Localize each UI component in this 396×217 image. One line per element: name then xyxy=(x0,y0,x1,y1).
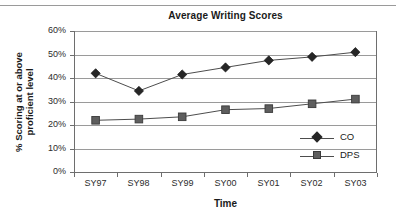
square-marker-icon xyxy=(313,151,321,159)
x-tick-7 xyxy=(377,173,378,177)
x-tick-label-SY01: SY01 xyxy=(247,178,290,188)
data-point-dps-SY99 xyxy=(178,113,186,121)
data-point-dps-SY98 xyxy=(135,115,143,123)
x-tick-2 xyxy=(161,173,162,177)
x-tick-6 xyxy=(334,173,335,177)
y-axis-line xyxy=(74,31,75,173)
x-tick-label-SY02: SY02 xyxy=(290,178,333,188)
x-tick-label-SY03: SY03 xyxy=(334,178,377,188)
x-tick-label-SY00: SY00 xyxy=(204,178,247,188)
diamond-marker-icon xyxy=(311,131,322,142)
x-tick-label-SY99: SY99 xyxy=(161,178,204,188)
data-point-dps-SY00 xyxy=(222,106,230,114)
data-point-co-SY01 xyxy=(264,56,273,65)
x-tick-1 xyxy=(117,173,118,177)
chart-title: Average Writing Scores xyxy=(74,10,377,21)
y-tick-label-0%: 0% xyxy=(24,166,66,176)
gridline-50% xyxy=(74,55,377,56)
x-tick-0 xyxy=(74,173,75,177)
page-top-rule xyxy=(0,5,396,6)
y-tick-label-20%: 20% xyxy=(24,119,66,129)
x-tick-5 xyxy=(290,173,291,177)
x-tick-label-SY97: SY97 xyxy=(74,178,117,188)
legend-item-dps: DPS xyxy=(300,148,372,164)
y-tick-label-10%: 10% xyxy=(24,143,66,153)
gridline-20% xyxy=(74,125,377,126)
gridline-60% xyxy=(74,31,377,32)
gridline-0% xyxy=(74,172,377,173)
chart-page: Average Writing Scores % Scoring at or a… xyxy=(0,0,396,217)
y-tick-label-50%: 50% xyxy=(24,49,66,59)
y-tick-label-60%: 60% xyxy=(24,25,66,35)
gridline-30% xyxy=(74,102,377,103)
y-tick-label-30%: 30% xyxy=(24,96,66,106)
legend-item-co: CO xyxy=(300,130,372,146)
data-point-co-SY98 xyxy=(134,86,143,95)
x-axis-title: Time xyxy=(74,198,377,209)
data-point-co-SY00 xyxy=(221,63,230,72)
y-axis-title-line-1: % Scoring at or above xyxy=(13,22,24,182)
plot-right-border xyxy=(376,31,377,173)
chart-legend: CO DPS xyxy=(300,130,372,166)
gridline-40% xyxy=(74,78,377,79)
legend-label-dps: DPS xyxy=(340,149,360,160)
data-point-dps-SY01 xyxy=(265,105,273,113)
data-point-co-SY97 xyxy=(91,69,100,78)
y-tick-label-40%: 40% xyxy=(24,72,66,82)
data-point-co-SY02 xyxy=(307,52,316,61)
legend-label-co: CO xyxy=(340,131,354,142)
x-tick-4 xyxy=(247,173,248,177)
data-point-dps-SY97 xyxy=(92,117,100,125)
x-tick-3 xyxy=(204,173,205,177)
series-line-co xyxy=(96,52,356,91)
x-tick-label-SY98: SY98 xyxy=(117,178,160,188)
